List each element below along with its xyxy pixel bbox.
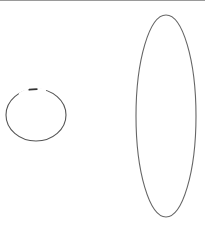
diagram-canvas — [0, 0, 205, 231]
small-ellipse — [6, 89, 66, 141]
tall-ellipse — [136, 15, 196, 217]
